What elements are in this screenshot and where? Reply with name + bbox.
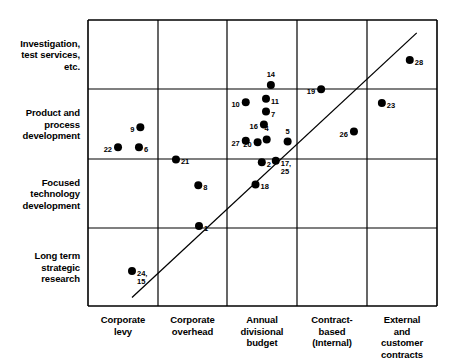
data-point-marker: [317, 85, 325, 93]
data-point-marker: [114, 143, 122, 151]
data-point-label: 4: [265, 125, 269, 134]
data-point-label: 7: [271, 111, 275, 120]
data-point-marker: [262, 95, 270, 103]
data-point-marker: [242, 98, 250, 106]
data-point-label: 20: [243, 141, 251, 150]
data-point-label: 11: [271, 98, 279, 107]
data-point-label: 19: [307, 88, 315, 97]
x-axis-label: Contract- based (Internal): [294, 314, 370, 349]
data-point-marker: [258, 158, 266, 166]
data-point-label: 10: [231, 101, 239, 110]
x-axis-label: Annual divisional budget: [224, 314, 300, 349]
data-point-marker: [262, 108, 270, 116]
y-axis-label: Investigation, test services, etc.: [0, 37, 80, 72]
data-point-marker: [252, 180, 260, 188]
data-point-marker: [135, 143, 143, 151]
data-point-label: 6: [144, 146, 148, 155]
data-point-label: 5: [286, 128, 290, 137]
data-point-marker: [350, 128, 358, 136]
data-point-marker: [284, 138, 292, 146]
data-point-label: 26: [340, 131, 348, 140]
data-point-label: 14: [267, 71, 275, 80]
x-axis-label: External and customer contracts: [364, 314, 440, 360]
scatter-chart: Long term strategic researchFocused tech…: [0, 0, 456, 363]
data-point-marker: [195, 222, 203, 230]
data-point-label: 1: [204, 225, 208, 234]
data-point-marker: [128, 267, 136, 275]
data-point-label: 22: [104, 146, 112, 155]
data-point-marker: [263, 135, 271, 143]
data-point-label: 21: [181, 158, 189, 167]
x-axis-label: Corporate levy: [85, 314, 161, 337]
y-axis-label: Focused technology development: [0, 176, 80, 211]
data-point-label: 23: [387, 102, 395, 111]
data-point-marker: [172, 155, 180, 163]
data-point-marker: [272, 157, 280, 165]
data-point-marker: [378, 99, 386, 107]
data-point-label: 2: [267, 161, 271, 170]
y-axis-label: Long term strategic research: [0, 250, 80, 285]
data-point-marker: [194, 181, 202, 189]
data-point-label: 9: [130, 126, 134, 135]
data-point-label: 18: [261, 183, 269, 192]
data-point-label: 16: [250, 123, 258, 132]
data-point-label: 17, 25: [281, 160, 291, 177]
data-point-label: 27: [231, 140, 239, 149]
y-axis-label: Product and process development: [0, 107, 80, 142]
data-point-marker: [136, 123, 144, 131]
x-axis-label: Corporate overhead: [155, 314, 231, 337]
data-point-marker: [406, 56, 414, 64]
data-point-label: 24, 15: [137, 270, 147, 287]
data-point-marker: [254, 138, 262, 146]
data-point-label: 8: [203, 184, 207, 193]
data-point-label: 28: [415, 59, 423, 68]
data-point-marker: [267, 81, 275, 89]
